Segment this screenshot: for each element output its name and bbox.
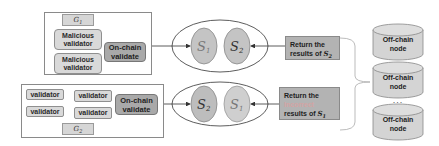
validator-2: validator [74,90,112,102]
return-2-line-1: Return the [284,91,335,100]
onchain-validate-1: On-chain validate [104,42,146,62]
return-1-line-2: results of S2 [290,49,335,61]
group-2-label: G2 [62,123,94,135]
return-2-line-3: results of S1 [284,109,335,121]
more-nodes-ellipsis: ... [373,95,423,105]
return-2-incorrect-word: Incorrect [284,100,335,109]
return-1-line-1: Return the [290,40,335,49]
group-1-label: G1 [62,14,94,26]
validator-3: validator [26,106,64,117]
validator-1: validator [26,89,64,100]
offchain-node-3-label: Off-chainnode [373,115,423,133]
bracket-connector [340,38,370,130]
onchain-validate-2: On-chain validate [115,94,158,115]
malicious-validator-2: Malicious validator [54,53,102,74]
offchain-node-1-label: Off-chainnode [373,35,423,53]
malicious-validator-1: Malicious validator [54,29,102,50]
validator-4: validator [74,107,112,119]
offchain-node-2-label: Off-chainnode [373,73,423,91]
return-incorrect-results-box-2: Return the Incorrect results of S1 [279,87,340,120]
return-results-box-1: Return the results of S2 [285,36,340,60]
